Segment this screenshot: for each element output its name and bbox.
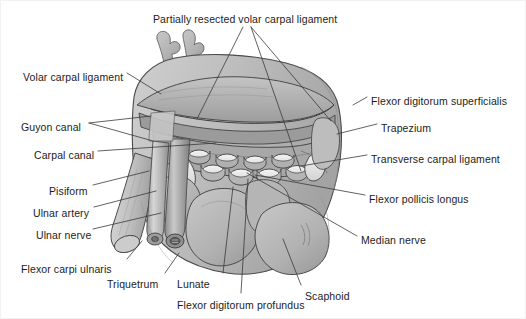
label-guyon-canal: Guyon canal	[21, 121, 81, 133]
label-median-nerve: Median nerve	[361, 234, 426, 246]
label-trapezium: Trapezium	[381, 122, 431, 134]
leader-triquetrum	[165, 253, 179, 273]
label-scaphoid: Scaphoid	[305, 290, 350, 302]
guyon-canal-structure	[149, 111, 175, 141]
leader-flexor-digitorum-superficialis	[353, 97, 367, 105]
label-transverse-carpal-ligament: Transverse carpal ligament	[371, 153, 500, 165]
tendon-cross-section	[272, 154, 294, 168]
label-pisiform: Pisiform	[49, 185, 88, 197]
label-flexor-digitorum-profundus: Flexor digitorum profundus	[177, 299, 305, 311]
tendon-cross-section	[188, 150, 210, 164]
tendon-cross-section	[216, 154, 238, 168]
label-partially-resected-volar-carpal-ligament: Partially resected volar carpal ligament	[153, 13, 337, 25]
label-flexor-digitorum-superficialis: Flexor digitorum superficialis	[371, 95, 507, 107]
label-carpal-canal: Carpal canal	[34, 149, 94, 161]
leader-trapezium	[337, 124, 377, 134]
label-flexor-carpi-ulnaris: Flexor carpi ulnaris	[21, 263, 112, 275]
label-volar-carpal-ligament: Volar carpal ligament	[23, 71, 123, 83]
label-triquetrum: Triquetrum	[107, 278, 158, 290]
label-lunate: Lunate	[177, 278, 210, 290]
tendon-cross-section	[244, 156, 266, 170]
anatomical-figure: Partially resected volar carpal ligament…	[0, 0, 526, 319]
label-flexor-pollicis-longus: Flexor pollicis longus	[369, 193, 469, 205]
label-ulnar-artery: Ulnar artery	[33, 207, 89, 219]
label-ulnar-nerve: Ulnar nerve	[36, 229, 91, 241]
